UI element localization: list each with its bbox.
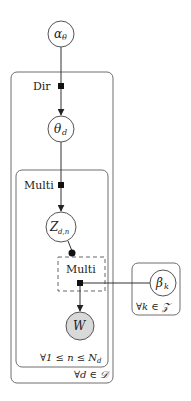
node-theta-label: θ bbox=[54, 122, 62, 136]
plate-documents-label: ∀d ∈ 𝒟 bbox=[74, 369, 110, 380]
node-theta: θ d bbox=[48, 116, 74, 142]
node-alpha: α θ bbox=[48, 21, 74, 47]
factor-multi-z-label: Multi bbox=[24, 179, 54, 192]
factor-multi-w-label: Multi bbox=[66, 263, 96, 276]
factor-multi-z-icon bbox=[58, 182, 64, 188]
node-z-sub: d,n bbox=[58, 228, 70, 236]
node-alpha-label: α bbox=[54, 27, 62, 41]
lda-factor-graph: α θ Dir θ d Multi Z d,n Multi W β k ∀1 ≤… bbox=[0, 0, 191, 401]
plate-words-label-sub: d bbox=[97, 357, 102, 365]
gate-dot-icon bbox=[69, 250, 76, 257]
plate-topics-label: ∀k ∈ 𝒵 bbox=[136, 301, 172, 313]
factor-multi-w-icon bbox=[77, 280, 83, 286]
node-theta-sub: d bbox=[62, 128, 67, 137]
factor-dir-icon bbox=[58, 83, 64, 89]
node-beta: β k bbox=[150, 270, 176, 296]
edge-z-gate bbox=[68, 241, 72, 251]
node-w-label: W bbox=[73, 319, 87, 333]
node-beta-label: β bbox=[155, 276, 163, 290]
plate-words-label: ∀1 ≤ n ≤ N bbox=[40, 352, 98, 363]
node-beta-sub: k bbox=[164, 282, 169, 291]
factor-dir-label: Dir bbox=[33, 80, 51, 93]
node-w: W bbox=[66, 312, 94, 340]
node-z: Z d,n bbox=[46, 212, 76, 242]
node-alpha-sub: θ bbox=[62, 33, 67, 42]
